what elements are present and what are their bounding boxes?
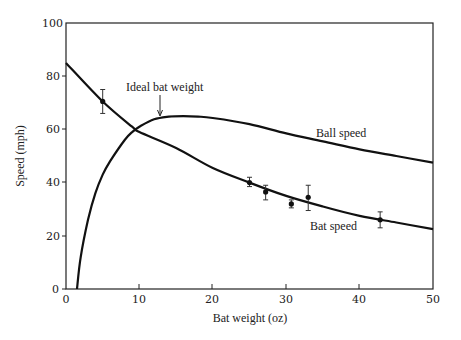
y-tick-label: 0 bbox=[52, 283, 59, 296]
ideal-bat-weight-label: Ideal bat weight bbox=[126, 80, 204, 94]
y-tick-label: 100 bbox=[42, 17, 63, 30]
x-tick-label: 50 bbox=[426, 293, 440, 306]
y-axis: 0 20 40 60 80 100 bbox=[42, 17, 66, 296]
x-tick-label: 30 bbox=[279, 293, 293, 306]
data-point bbox=[100, 90, 105, 114]
y-tick-label: 20 bbox=[46, 230, 60, 243]
y-tick-label: 60 bbox=[46, 123, 60, 136]
bat-speed-label: Bat speed bbox=[310, 219, 357, 233]
y-axis-label: Speed (mph) bbox=[13, 125, 27, 187]
x-tick-label: 40 bbox=[352, 293, 366, 306]
y-tick-label: 40 bbox=[46, 176, 60, 189]
x-tick-label: 10 bbox=[132, 293, 146, 306]
data-point bbox=[289, 200, 294, 208]
data-point bbox=[306, 185, 311, 210]
y-tick-label: 80 bbox=[46, 70, 60, 83]
data-points bbox=[100, 90, 383, 228]
x-axis: 0 10 20 30 40 50 bbox=[63, 284, 441, 306]
series-lines bbox=[66, 63, 433, 289]
chart: 0 20 40 60 80 100 0 10 20 30 40 50 Bat w… bbox=[0, 0, 461, 340]
plot-frame bbox=[66, 23, 433, 289]
x-tick-label: 0 bbox=[63, 293, 70, 306]
ball-speed-curve bbox=[77, 116, 433, 289]
ball-speed-label: Ball speed bbox=[316, 126, 366, 140]
data-point bbox=[247, 177, 252, 186]
x-axis-label: Bat weight (oz) bbox=[213, 311, 288, 325]
data-point bbox=[378, 212, 383, 228]
x-tick-label: 20 bbox=[205, 293, 219, 306]
